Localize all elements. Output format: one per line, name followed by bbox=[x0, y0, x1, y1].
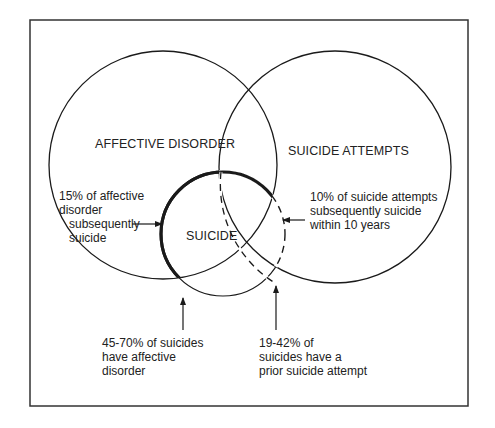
suicide-attempts-circle bbox=[219, 51, 451, 283]
label-suicide: SUICIDE bbox=[186, 229, 237, 243]
annotation-attempts-to-suicide: 10% of suicide attempts subsequently sui… bbox=[310, 190, 437, 232]
annotation-suicides-attempt: 19-42% of suicides have a prior suicide … bbox=[259, 336, 367, 378]
label-affective-disorder: AFFECTIVE DISORDER bbox=[95, 137, 235, 151]
label-suicide-attempts: SUICIDE ATTEMPTS bbox=[288, 144, 409, 158]
annotation-suicides-affective: 45-70% of suicides have affective disord… bbox=[102, 336, 203, 378]
annotation-affective-to-suicide: 15% of affective disorder subsequently s… bbox=[59, 189, 144, 245]
